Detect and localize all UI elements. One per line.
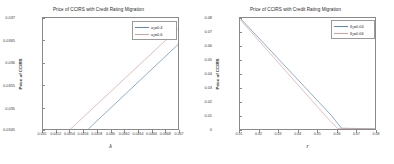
legend-label-a2: a2=0.6 bbox=[151, 32, 162, 37]
legend-item-a1[interactable]: a1=0.4 bbox=[135, 24, 174, 31]
series-line-a2 bbox=[71, 29, 178, 129]
x-tick-label: 0.07 bbox=[353, 132, 360, 136]
x-tick-label: 0.0456 bbox=[78, 132, 89, 136]
legend-swatch-icon bbox=[334, 33, 348, 34]
chart-title-right: Price of CCIRS with Credit Rating Migrat… bbox=[197, 7, 394, 12]
x-tick-label: 0.0466 bbox=[146, 132, 157, 136]
y-tick-label: 0 bbox=[210, 127, 212, 132]
y-tick-label: 0.02 bbox=[204, 99, 212, 104]
y-tick-label: 0.037 bbox=[5, 15, 15, 20]
x-tick-label: 0.0464 bbox=[132, 132, 143, 136]
legend-item-d2[interactable]: δ2=0.06 bbox=[334, 30, 372, 37]
y-tick-label: 0.08 bbox=[204, 15, 212, 20]
y-tick-label: 0.07 bbox=[204, 29, 212, 34]
y-tick-label: 0.04 bbox=[204, 71, 212, 76]
x-tick-label: 0.03 bbox=[275, 132, 282, 136]
x-tick-label: 0.06 bbox=[333, 132, 340, 136]
y-axis-label-wrap-left: Price of CCIRS bbox=[8, 17, 20, 130]
series-line-a1 bbox=[88, 45, 178, 129]
legend-label-d1: δ1=0.04 bbox=[350, 24, 364, 29]
x-tick-label: 0.01 bbox=[236, 132, 243, 136]
legend-label-d2: δ2=0.06 bbox=[350, 31, 364, 36]
x-tick-label: 0.047 bbox=[175, 132, 184, 136]
x-axis-label-left: λ bbox=[42, 143, 179, 149]
chart-title-left: Price of CCIRS with Credit Rating Migrat… bbox=[0, 7, 197, 12]
legend-label-a1: a1=0.4 bbox=[151, 25, 162, 30]
y-tick-label: 0.03 bbox=[204, 85, 212, 90]
chart-ccirs-vs-lambda: Price of CCIRS with Credit Rating Migrat… bbox=[0, 0, 197, 164]
x-tick-label: 0.02 bbox=[255, 132, 262, 136]
chart-ccirs-vs-r: Price of CCIRS with Credit Rating Migrat… bbox=[197, 0, 394, 164]
figure-row: Price of CCIRS with Credit Rating Migrat… bbox=[0, 0, 394, 164]
x-tick-label: 0.0468 bbox=[160, 132, 171, 136]
y-tick-label: 0.0345 bbox=[3, 127, 15, 132]
x-tick-label: 0.045 bbox=[38, 132, 47, 136]
x-tick-label: 0.0454 bbox=[64, 132, 75, 136]
legend-swatch-icon bbox=[334, 26, 348, 27]
x-tick-label: 0.0458 bbox=[91, 132, 102, 136]
x-tick-label: 0.04 bbox=[294, 132, 301, 136]
x-tick-label: 0.08 bbox=[373, 132, 380, 136]
legend-swatch-icon bbox=[135, 34, 149, 35]
legend-swatch-icon bbox=[135, 27, 149, 28]
x-tick-label: 0.0462 bbox=[119, 132, 130, 136]
x-axis-label-right: r bbox=[239, 143, 376, 149]
y-tick-label: 0.05 bbox=[204, 57, 212, 62]
legend-left[interactable]: a1=0.4 a2=0.6 bbox=[132, 21, 177, 40]
y-tick-label: 0.01 bbox=[204, 113, 212, 118]
y-tick-label: 0.035 bbox=[5, 106, 15, 111]
legend-right[interactable]: δ1=0.04 δ2=0.06 bbox=[331, 20, 375, 39]
y-tick-label: 0.0365 bbox=[3, 38, 15, 43]
x-tick-label: 0.0452 bbox=[50, 132, 61, 136]
y-axis-label-left: Price of CCIRS bbox=[18, 58, 23, 89]
y-tick-label: 0.036 bbox=[5, 60, 15, 65]
y-tick-label: 0.06 bbox=[204, 43, 212, 48]
x-tick-label: 0.046 bbox=[106, 132, 115, 136]
legend-item-d1[interactable]: δ1=0.04 bbox=[334, 23, 372, 30]
x-tick-label: 0.05 bbox=[314, 132, 321, 136]
legend-item-a2[interactable]: a2=0.6 bbox=[135, 31, 174, 38]
y-tick-label: 0.0355 bbox=[3, 83, 15, 88]
y-axis-label-right: Price of CCIRS bbox=[215, 58, 220, 89]
